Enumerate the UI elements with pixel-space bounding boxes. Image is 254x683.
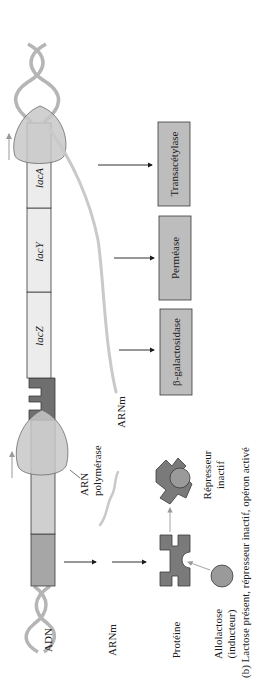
repressor-protein [160, 535, 190, 586]
label-proteine: Protéine [170, 622, 182, 659]
operon-mrna [50, 130, 116, 392]
label-inducteur: (inducteur) [225, 609, 238, 658]
figure-caption: (b) Lactose présent, répresseur inactif,… [239, 447, 252, 678]
gene-label-lacA: lacA [33, 168, 45, 188]
gene-label-lacZ: lacZ [33, 325, 45, 345]
protein-label-beta-galactosidase: β-galactosidase [170, 318, 182, 386]
label-adn: ADN [42, 628, 54, 652]
label-arnm-left: ARNm [106, 624, 118, 656]
rna-polymerase-bottom [16, 410, 68, 475]
protein-box-transacetylase: Transacétylase [158, 122, 190, 206]
dna-strand [27, 123, 55, 586]
arrow-inducer-binding [188, 562, 210, 570]
inactive-repressor [156, 458, 192, 504]
label-allolactose: Allolactose [212, 609, 224, 659]
protein-box-permease: Perméase [159, 216, 191, 300]
label-inactif: inactif [214, 461, 226, 489]
label-arnm-operon: ARNm [115, 396, 127, 428]
gene-label-lacY: lacY [33, 240, 45, 261]
label-polymerase: polymérase [91, 445, 103, 496]
label-represseur: Répresseur [201, 450, 213, 499]
allolactose-inducer [211, 565, 233, 587]
label-arn: ARN [78, 473, 90, 496]
protein-label-transacetylase: Transacétylase [168, 131, 180, 196]
lac-operon-diagram: lacA lacY lacZ Transacétylase Perméase β… [0, 0, 254, 683]
protein-label-permease: Perméase [169, 237, 181, 279]
protein-box-beta-galactosidase: β-galactosidase [160, 309, 192, 395]
regulator-gene [31, 534, 55, 586]
